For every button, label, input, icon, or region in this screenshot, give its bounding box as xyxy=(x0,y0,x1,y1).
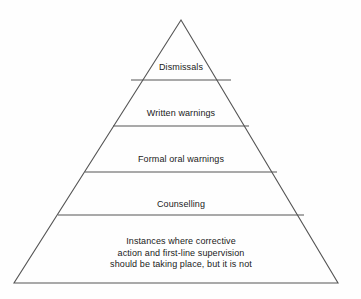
tier-label-counselling: Counselling xyxy=(91,199,271,210)
tier-text-line: Instances where corrective xyxy=(51,236,311,248)
tier-text-line: Formal oral warnings xyxy=(91,154,271,165)
tier-text-line: should be taking place, but it is not xyxy=(51,259,311,271)
tier-text-line: action and first-line supervision xyxy=(51,248,311,260)
tier-label-dismissals: Dismissals xyxy=(106,62,256,73)
tier-text-line: Counselling xyxy=(91,199,271,210)
tier-text-line: Dismissals xyxy=(106,62,256,73)
tier-text-line: Written warnings xyxy=(101,108,261,119)
tier-label-base-instances: Instances where corrective action and fi… xyxy=(51,236,311,271)
tier-label-formal-oral-warnings: Formal oral warnings xyxy=(91,154,271,165)
tier-label-written-warnings: Written warnings xyxy=(101,108,261,119)
pyramid-diagram: Dismissals Written warnings Formal oral … xyxy=(0,0,361,299)
